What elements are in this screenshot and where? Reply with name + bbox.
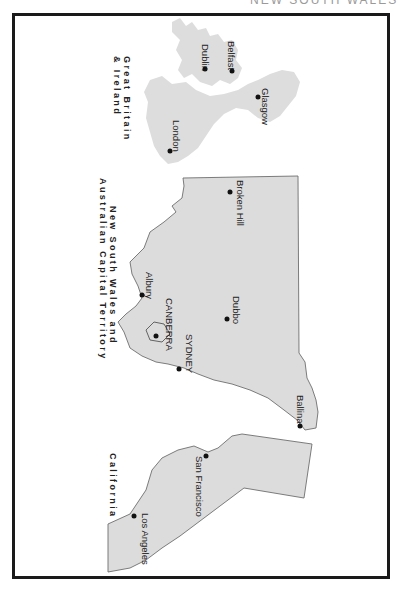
map-gb-ireland [144,18,300,164]
region-labels: Great Britain & Ireland New South Wales … [98,56,132,519]
land-nsw [118,176,318,430]
city-dot-ballina[interactable] [298,424,303,429]
city-label-london: London [171,120,182,152]
region-label-nsw-line1: New South Wales and [108,206,118,345]
city-label-los-angeles: Los Angeles [140,513,151,565]
city-label-glasgow: Glasgow [260,88,271,125]
city-dot-los-angeles[interactable] [132,514,137,519]
city-dot-sydney[interactable] [177,367,182,372]
city-dot-dubbo[interactable] [225,317,230,322]
city-dot-albury[interactable] [140,293,145,298]
city-label-belfast: Belfast [226,41,237,70]
city-dot-broken-hill[interactable] [228,190,233,195]
city-label-canberra: CANBERRA [164,298,175,351]
city-label-san-francisco: San Francisco [194,456,205,517]
region-label-gb-line1: Great Britain [122,56,132,142]
city-label-albury: Albury [144,272,155,299]
map-california [108,434,312,572]
city-dot-glasgow[interactable] [256,95,261,100]
region-label-gb-line2: & Ireland [112,56,122,116]
land-great-britain [144,70,300,164]
comparison-map: Belfast Dublin Glasgow London Broken Hil… [0,0,406,593]
city-label-broken-hill: Broken Hill [235,180,246,226]
region-label-california: California [108,453,118,519]
city-label-dubbo: Dubbo [231,296,242,324]
city-label-ballina: Ballina [295,395,306,424]
city-label-sydney: SYDNEY [184,334,195,374]
region-label-nsw-line2: Australian Capital Territory [98,178,108,361]
land-california [108,434,312,572]
city-dot-canberra[interactable] [154,334,159,339]
map-nsw-act [118,176,318,430]
city-label-dublin: Dublin [200,44,211,71]
